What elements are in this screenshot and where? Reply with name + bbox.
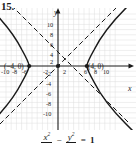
vertex-label-left: (−4, 0) bbox=[4, 64, 24, 71]
y-tick-label-neg6: -6 bbox=[46, 91, 51, 97]
vertex-label-right: (4, 0) bbox=[88, 64, 104, 71]
origin-dot bbox=[56, 64, 60, 68]
x-tick-label-6: 6 bbox=[84, 69, 87, 75]
fraction-y-numerator: y2 bbox=[66, 132, 77, 142]
y-tick-label-8: 8 bbox=[50, 32, 53, 38]
equation-equals-sign: = bbox=[79, 135, 88, 145]
equation-operator-minus: − bbox=[54, 135, 63, 145]
y-exponent: 2 bbox=[72, 131, 75, 137]
y-axis-label: y bbox=[54, 8, 58, 17]
y-tick-label-neg8: -8 bbox=[46, 101, 51, 107]
figure-hyperbola-graph: 15. bbox=[0, 0, 136, 155]
axis-arrowheads bbox=[56, 8, 134, 68]
equation: x2 − y2 = 1 bbox=[0, 131, 136, 148]
y-tick-label-6: 6 bbox=[50, 42, 53, 48]
y-tick-label-10: 10 bbox=[47, 22, 53, 28]
x-exponent: 2 bbox=[47, 131, 50, 137]
y-tick-label-neg10: -10 bbox=[43, 111, 51, 117]
y-tick-label-neg4: -4 bbox=[46, 81, 51, 87]
fraction-y-term: y2 bbox=[66, 132, 77, 149]
fraction-x-denominator bbox=[41, 142, 52, 149]
fraction-x-numerator: x2 bbox=[41, 132, 52, 142]
fraction-y-denominator bbox=[66, 142, 77, 149]
y-tick-label-neg2: -2 bbox=[46, 71, 51, 77]
vertex-left-dot bbox=[27, 64, 31, 68]
equation-right-hand-side: 1 bbox=[90, 135, 95, 145]
x-axis-label: x bbox=[128, 84, 132, 93]
y-tick-label-2: 2 bbox=[50, 59, 53, 65]
x-tick-label-2: 2 bbox=[63, 69, 66, 75]
fraction-x-term: x2 bbox=[41, 132, 52, 149]
